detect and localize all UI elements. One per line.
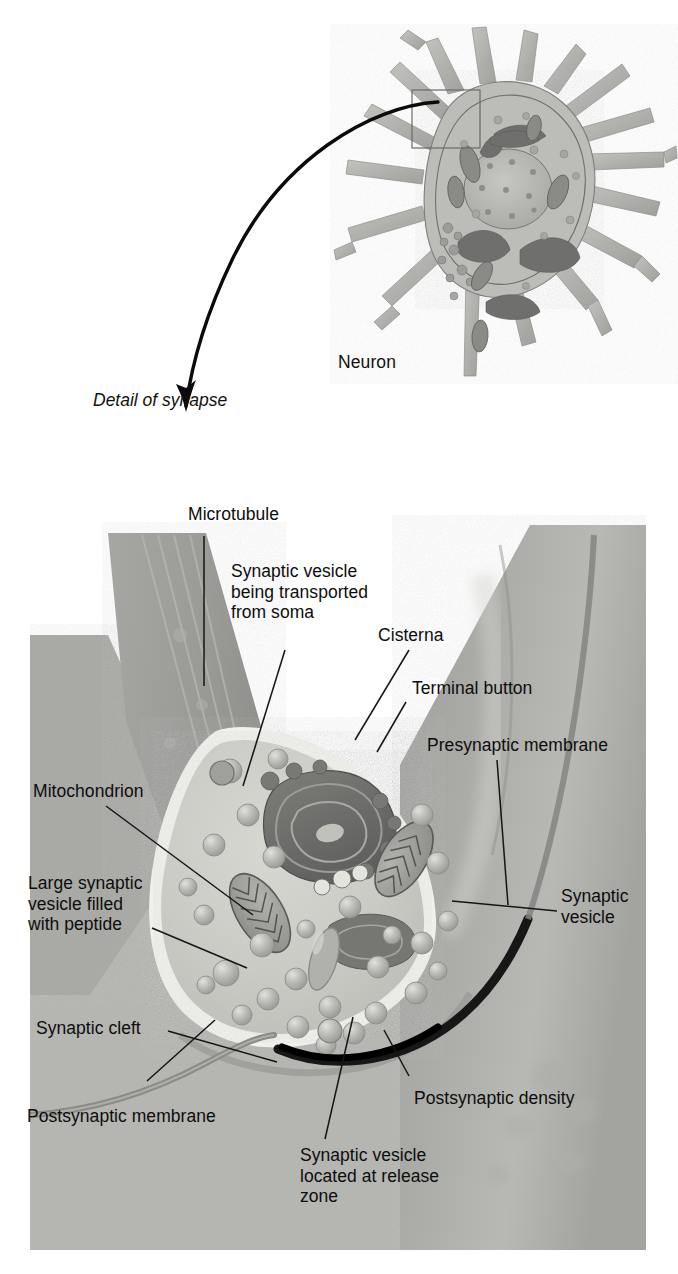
label-synaptic-vesicle: Synaptic vesicle [561,886,629,927]
label-microtubule: Microtubule [188,504,279,525]
label-postsynaptic-membrane: Postsynaptic membrane [27,1106,216,1127]
label-presynaptic-membrane: Presynaptic membrane [427,735,608,756]
label-postsynaptic-density: Postsynaptic density [414,1088,575,1109]
vesicle-at-release-zone-shape [318,1019,342,1043]
label-vesicle-release-zone: Synaptic vesicle located at release zone [300,1145,439,1207]
vesicle-transported-shape [210,761,234,785]
label-vesicle-transported: Synaptic vesicle being transported from … [231,561,368,623]
label-mitochondrion: Mitochondrion [33,781,144,802]
label-cisterna: Cisterna [378,625,444,646]
label-terminal-button: Terminal button [412,678,532,699]
label-synaptic-cleft: Synaptic cleft [36,1018,141,1039]
synapse-figure: Neuron Detail of synapse [0,0,678,1274]
detail-arrow-icon [120,100,450,500]
detail-of-synapse-caption: Detail of synapse [93,390,227,410]
label-large-peptide-vesicle: Large synaptic vesicle filled with pepti… [28,873,143,935]
